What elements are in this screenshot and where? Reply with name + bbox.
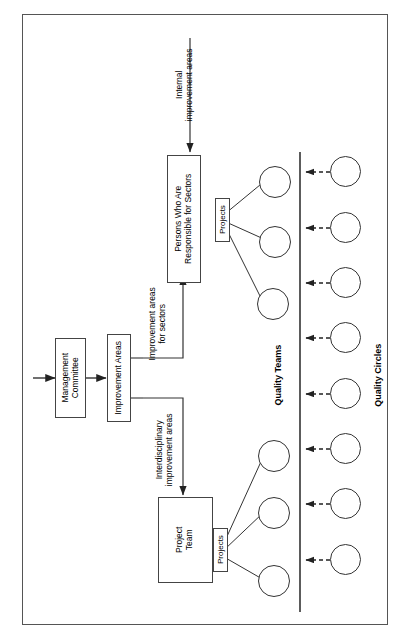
- node-projects-bottom[interactable]: Projects: [213, 528, 228, 572]
- internal-label-line1: Internal: [174, 71, 184, 99]
- sectors-label-line1: Improvement areas: [147, 287, 157, 360]
- quality-circle[interactable]: [330, 544, 361, 575]
- improvement-areas-label: Improvement Areas: [113, 341, 123, 415]
- dashed-arrows-quality-circles: [306, 172, 330, 560]
- project-team-label-line1: Project: [175, 527, 185, 553]
- quality-circles-label: Quality Circles: [373, 344, 383, 407]
- quality-team-circle[interactable]: [258, 497, 290, 529]
- quality-circle[interactable]: [330, 156, 361, 187]
- diagram-canvas: Management Committee Improvement Areas P…: [0, 0, 407, 639]
- quality-team-circle[interactable]: [258, 440, 290, 472]
- edge-label-interdisciplinary-improvement-areas: Interdisciplinary improvement areas: [136, 412, 196, 492]
- interdisciplinary-label-line1: Interdisciplinary: [154, 420, 164, 479]
- edge-label-improvement-areas-for-sectors: Improvement areas for sectors: [132, 290, 192, 360]
- quality-circle[interactable]: [330, 322, 361, 353]
- quality-team-circle[interactable]: [259, 166, 291, 198]
- quality-team-circle[interactable]: [257, 288, 289, 320]
- projects-top-label: Projects: [218, 206, 227, 235]
- edge-areas-branch-stubs: [131, 358, 143, 398]
- node-project-team[interactable]: Project Team: [158, 497, 213, 583]
- quality-team-circle[interactable]: [259, 226, 291, 258]
- node-projects-top[interactable]: Projects: [215, 198, 230, 242]
- persons-responsible-label-line1: Persons Who Are: [173, 186, 183, 252]
- quality-circle[interactable]: [330, 378, 361, 409]
- node-persons-responsible[interactable]: Persons Who Are Responsible for Sectors: [167, 155, 201, 283]
- quality-teams-label: Quality Teams: [273, 345, 283, 406]
- quality-circle[interactable]: [330, 488, 361, 519]
- node-management-committee[interactable]: Management Committee: [55, 338, 86, 418]
- project-team-label-line2: Team: [185, 530, 195, 551]
- node-improvement-areas[interactable]: Improvement Areas: [107, 334, 131, 422]
- projects-bottom-label: Projects: [216, 536, 225, 565]
- edge-label-internal-improvement-areas: Internal improvement areas: [152, 45, 232, 125]
- management-committee-label-line1: Management: [60, 353, 70, 403]
- quality-team-circle[interactable]: [258, 565, 290, 597]
- interdisciplinary-label-line2: improvement areas: [164, 413, 174, 486]
- quality-circle[interactable]: [330, 433, 361, 464]
- quality-circle[interactable]: [330, 267, 361, 298]
- sectors-label-line2: for sectors: [157, 304, 167, 344]
- quality-circle[interactable]: [330, 212, 361, 243]
- persons-responsible-label-line2: Responsible for Sectors: [183, 174, 193, 264]
- internal-label-line2: improvement areas: [184, 48, 194, 121]
- management-committee-label-line2: Committee: [70, 357, 80, 398]
